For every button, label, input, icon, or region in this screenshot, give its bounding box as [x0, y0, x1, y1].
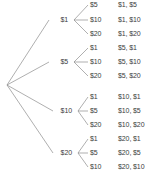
- level2-label-2-2: $20: [90, 121, 101, 129]
- level2-label-0-1: $10: [90, 16, 101, 24]
- level1-label-3: $20: [61, 149, 72, 157]
- outcome-label-0-0: $1, $5: [118, 1, 137, 9]
- edge-2-to-0: [78, 97, 88, 111]
- edge-3-to-0: [78, 139, 88, 153]
- outcome-label-1-1: $5, $10: [118, 58, 141, 66]
- level2-label-1-1: $10: [90, 58, 101, 66]
- edge-root-to-3: [7, 85, 53, 153]
- outcome-label-3-1: $20, $5: [118, 149, 141, 157]
- level2-label-3-1: $5: [90, 149, 98, 157]
- outcome-label-2-2: $10, $20: [118, 121, 144, 129]
- edge-0-to-0: [74, 5, 88, 20]
- level2-label-2-1: $5: [90, 107, 98, 115]
- level1-label-1: $5: [60, 58, 68, 66]
- edge-root-to-0: [7, 20, 49, 85]
- edge-1-to-2: [74, 62, 88, 76]
- level2-label-0-2: $20: [90, 30, 101, 38]
- level2-label-1-2: $20: [90, 72, 101, 80]
- outcome-label-2-1: $10, $5: [118, 107, 141, 115]
- probability-tree-diagram: $1$5$1, $5$10$1, $10$20$1, $20$5$1$5, $1…: [0, 0, 160, 171]
- edge-root-to-2: [7, 85, 53, 111]
- level2-label-0-0: $5: [90, 1, 98, 9]
- edge-root-to-1: [7, 62, 49, 85]
- outcome-label-1-0: $5, $1: [118, 44, 137, 52]
- outcome-label-0-1: $1, $10: [118, 16, 141, 24]
- edge-1-to-0: [74, 48, 88, 62]
- level2-label-3-0: $1: [90, 135, 98, 143]
- level2-label-1-0: $1: [90, 44, 98, 52]
- edge-3-to-2: [78, 153, 88, 167]
- outcome-label-3-2: $20, $10: [118, 163, 144, 171]
- level2-label-3-2: $10: [90, 163, 101, 171]
- level1-label-0: $1: [60, 16, 68, 24]
- outcome-label-0-2: $1, $20: [118, 30, 141, 38]
- edge-0-to-2: [74, 20, 88, 34]
- outcome-label-3-0: $20, $1: [118, 135, 141, 143]
- outcome-label-1-2: $5, $20: [118, 72, 141, 80]
- level1-label-2: $10: [61, 107, 72, 115]
- level2-label-2-0: $1: [90, 93, 98, 101]
- edge-2-to-2: [78, 111, 88, 125]
- outcome-label-2-0: $10, $1: [118, 93, 141, 101]
- tree-edges-layer: [0, 0, 160, 171]
